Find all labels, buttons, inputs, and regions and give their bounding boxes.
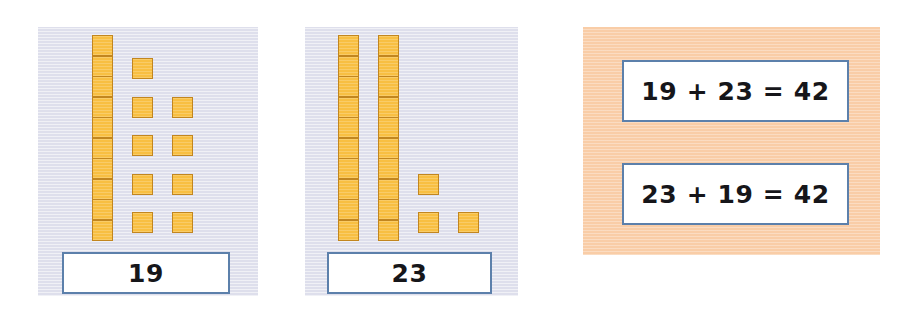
tens-rod-cube [92, 158, 113, 179]
ones-unit-cube [132, 58, 153, 79]
tens-rod-cube [92, 138, 113, 159]
tens-rod-cube [378, 179, 399, 200]
ones-unit-cube [172, 97, 193, 118]
tens-rod-cube [92, 179, 113, 200]
ones-unit-cube [458, 212, 479, 233]
number-label-value: 19 [128, 261, 164, 286]
ones-unit-cube [172, 135, 193, 156]
tens-rod-cube [338, 138, 359, 159]
ones-unit-cube [172, 212, 193, 233]
ones-unit-cube [132, 212, 153, 233]
tens-rod-cube [92, 35, 113, 56]
equation-box-two: 23 + 19 = 42 [622, 163, 849, 225]
equation-box-one: 19 + 23 = 42 [622, 60, 849, 122]
tens-rod-cube [338, 117, 359, 138]
equation-text: 19 + 23 = 42 [641, 79, 829, 104]
tens-rod-cube [378, 158, 399, 179]
tens-rod-cube [378, 117, 399, 138]
tens-rod-cube [378, 56, 399, 77]
tens-rod-cube [378, 220, 399, 241]
ones-unit-cube [132, 174, 153, 195]
tens-rod-cube [92, 199, 113, 220]
tens-rod-cube [338, 56, 359, 77]
tens-rod-cube [378, 35, 399, 56]
number-label-value: 23 [392, 261, 428, 286]
tens-rod-cube [338, 35, 359, 56]
ones-unit-cube [418, 212, 439, 233]
number-label-nineteen: 19 [62, 252, 230, 294]
tens-rod-cube [338, 220, 359, 241]
tens-rod-cube [92, 97, 113, 118]
ones-unit-cube [172, 174, 193, 195]
worksheet-canvas: 19 23 19 + 23 = 42 23 + 19 = 42 [0, 0, 918, 324]
tens-rod-cube [338, 158, 359, 179]
number-label-twentythree: 23 [327, 252, 492, 294]
tens-rod-cube [378, 97, 399, 118]
tens-rod-cube [92, 117, 113, 138]
tens-rod-cube [378, 199, 399, 220]
ones-unit-cube [132, 135, 153, 156]
tens-rod-cube [92, 56, 113, 77]
equation-text: 23 + 19 = 42 [641, 182, 829, 207]
tens-rod-cube [338, 199, 359, 220]
tens-rod-cube [92, 220, 113, 241]
ones-unit-cube [132, 97, 153, 118]
tens-rod-cube [378, 138, 399, 159]
tens-rod-cube [338, 179, 359, 200]
tens-rod-cube [338, 97, 359, 118]
tens-rod-cube [378, 76, 399, 97]
ones-unit-cube [418, 174, 439, 195]
tens-rod-cube [338, 76, 359, 97]
tens-rod-cube [92, 76, 113, 97]
